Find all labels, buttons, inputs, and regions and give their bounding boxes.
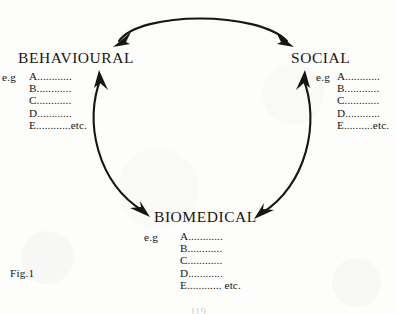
list-item: E............ etc. bbox=[180, 279, 241, 291]
list-item: B............ bbox=[180, 242, 241, 254]
node-behavioural-examples: e.g A............ B............ C.......… bbox=[2, 70, 134, 132]
node-biomedical-examples: e.g A............ B............ C.......… bbox=[144, 230, 257, 292]
list-item: C............ bbox=[29, 94, 87, 106]
list-item: A............ bbox=[180, 230, 241, 242]
eg-label: e.g bbox=[144, 230, 158, 243]
example-list: A............ B............ C...........… bbox=[29, 70, 87, 132]
list-item: D............ bbox=[29, 107, 87, 119]
example-list: A............ B............ C...........… bbox=[337, 70, 389, 132]
list-item: C............ bbox=[337, 94, 389, 106]
node-biomedical: BIOMEDICAL e.g A............ B..........… bbox=[154, 209, 257, 292]
list-item: D............ bbox=[180, 267, 241, 279]
list-item: A............ bbox=[337, 70, 389, 82]
list-item: E..........etc. bbox=[337, 119, 389, 131]
list-item: D............ bbox=[337, 107, 389, 119]
node-social: SOCIAL e.g A............ B............ C… bbox=[287, 50, 389, 132]
list-item: A............ bbox=[29, 70, 87, 82]
node-behavioural: BEHAVIOURAL e.g A............ B.........… bbox=[18, 50, 134, 132]
list-item: B............ bbox=[29, 82, 87, 94]
list-item: B............ bbox=[337, 82, 389, 94]
figure-page: .arc { fill: none; stroke: #17150f; } .h… bbox=[0, 0, 396, 314]
page-number: 119 bbox=[0, 305, 396, 314]
node-behavioural-title: BEHAVIOURAL bbox=[18, 50, 134, 66]
node-social-title: SOCIAL bbox=[291, 50, 389, 66]
list-item: C............ bbox=[180, 254, 241, 266]
example-list: A............ B............ C...........… bbox=[180, 230, 241, 292]
list-item: E............etc. bbox=[29, 119, 87, 131]
node-biomedical-title: BIOMEDICAL bbox=[154, 209, 257, 225]
eg-label: e.g bbox=[2, 70, 16, 83]
arrow-behavioural-social bbox=[113, 19, 294, 48]
eg-label: e.g bbox=[316, 70, 330, 83]
node-social-examples: e.g A............ B............ C.......… bbox=[316, 70, 389, 132]
figure-caption: Fig.1 bbox=[10, 267, 34, 279]
